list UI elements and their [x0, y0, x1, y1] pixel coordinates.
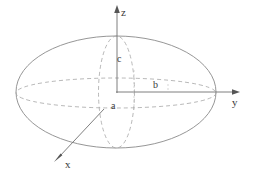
semi-axis-a-label: a [111, 101, 115, 111]
ellipsoid-diagram [0, 0, 254, 179]
semi-axis-b-label: b [153, 80, 158, 90]
y-axis-label: y [232, 97, 238, 108]
figure-canvas: z y x a b c [0, 0, 254, 179]
z-axis-arrowhead [114, 5, 120, 13]
x-axis-label: x [65, 159, 71, 170]
z-axis-label: z [121, 7, 126, 18]
semi-axis-c-label: c [117, 54, 121, 64]
equator-ellipse [16, 78, 216, 108]
y-axis-arrowhead [232, 89, 240, 94]
x-axis-line [59, 109, 104, 157]
x-axis-arrowhead [54, 153, 62, 162]
